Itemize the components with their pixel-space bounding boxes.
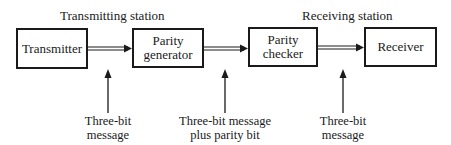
signal-label-2-line1: Three-bit message xyxy=(179,114,271,128)
signal-label-3-line1: Three-bit xyxy=(320,114,367,128)
arrow-up-signal-3 xyxy=(340,69,347,113)
parity-checker-label-line1: Parity xyxy=(263,33,303,47)
arrow-generator-to-checker xyxy=(204,45,248,53)
signal-label-1: Three-bit message xyxy=(85,114,132,142)
signal-label-1-line1: Three-bit xyxy=(85,114,132,128)
parity-checker-label-line2: checker xyxy=(263,47,303,61)
signal-label-1-line2: message xyxy=(85,128,132,142)
arrow-transmitter-to-generator xyxy=(88,45,132,53)
signal-label-2: Three-bit message plus parity bit xyxy=(179,114,271,142)
receiver-label: Receiver xyxy=(377,40,423,54)
receiver-block: Receiver xyxy=(364,27,437,67)
transmitter-block: Transmitter xyxy=(16,28,88,69)
parity-generator-label-line2: generator xyxy=(143,48,192,62)
parity-generator-label-line1: Parity xyxy=(143,34,192,48)
parity-checker-block: Parity checker xyxy=(248,27,318,67)
signal-label-3: Three-bit message xyxy=(320,114,367,142)
transmitter-label: Transmitter xyxy=(22,42,82,56)
parity-generator-block: Parity generator xyxy=(132,28,204,68)
arrow-up-signal-1 xyxy=(105,69,112,113)
signal-label-3-line2: message xyxy=(320,128,367,142)
arrow-checker-to-receiver xyxy=(318,44,364,52)
signal-label-2-line2: plus parity bit xyxy=(179,128,271,142)
arrow-up-signal-2 xyxy=(222,69,229,113)
